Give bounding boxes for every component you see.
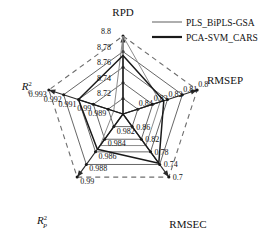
tick-label-RMSEP-3: 0.83 (154, 94, 168, 103)
tick-label-R2p-4: 0.982 (117, 127, 135, 136)
axis-title-RMSEP: RMSEP (207, 74, 243, 86)
tick-label-R2c-4: 0.989 (88, 109, 106, 118)
axis-title-RMSEC: RMSEC (169, 218, 206, 230)
tick-label-RMSEC-2: 0.78 (155, 148, 169, 157)
tick-label-R2c-2: 0.991 (58, 100, 76, 109)
legend-label-0: PLS_BiPLS-GSA (186, 18, 255, 28)
tick-label-RMSEP-1: 0.81 (183, 85, 197, 94)
legend-label-1: PCA-SVM_CARS (186, 33, 258, 43)
tick-label-RMSEC-3: 0.82 (145, 135, 159, 144)
axis-tick-dot-R2p (94, 150, 97, 153)
tick-label-RMSEP-2: 0.82 (169, 90, 183, 99)
axis-title-RPD: RPD (112, 6, 133, 18)
tick-label-RPD-0: 8.8 (101, 27, 111, 36)
radar-chart-svg: 8.88.788.768.748.720.80.810.820.830.840.… (0, 0, 277, 236)
axis-tick-dot-R2p (76, 176, 79, 179)
axis-tick-dot-R2c (62, 93, 65, 96)
axis-title-R2p: R2P (36, 214, 47, 229)
tick-label-R2p-0: 0.99 (80, 177, 94, 186)
tick-label-RPD-1: 8.78 (97, 43, 111, 52)
tick-label-R2p-3: 0.984 (108, 139, 126, 148)
axis-title-R2c: R2C (21, 80, 33, 95)
tick-label-R2p-1: 0.988 (89, 164, 107, 173)
tick-label-RMSEC-1: 0.74 (164, 160, 178, 169)
axis-tick-dot-R2p (85, 163, 88, 166)
tick-label-R2p-2: 0.986 (98, 152, 116, 161)
tick-label-RPD-2: 8.76 (97, 58, 111, 67)
axis-tick-dot-RMSEC (167, 176, 170, 179)
tick-label-RMSEC-0: 0.7 (173, 173, 183, 182)
tick-label-RMSEP-4: 0.84 (139, 99, 153, 108)
tick-label-RPD-4: 8.72 (97, 89, 111, 98)
tick-label-RMSEC-4: 0.86 (136, 123, 150, 132)
axis-tick-dot-R2c (47, 88, 50, 91)
tick-label-RPD-3: 8.74 (97, 74, 111, 83)
radar-chart: 8.88.788.768.748.720.80.810.820.830.840.… (0, 0, 277, 236)
